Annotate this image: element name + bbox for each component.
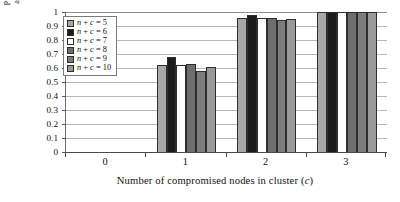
y-axis-title: Probability of selecting adversary clust… bbox=[0, 0, 26, 36]
y-axis-tick-label: 0.6 bbox=[47, 62, 58, 74]
x-axis-tick-label: 3 bbox=[326, 156, 366, 167]
x-axis-tick-labels: 0123 bbox=[65, 156, 386, 172]
legend-swatch bbox=[67, 38, 74, 45]
bar bbox=[257, 18, 267, 152]
bar bbox=[247, 15, 257, 152]
bar-chart-figure: Probability of selecting adversary clust… bbox=[0, 0, 400, 202]
y-axis-tick-label: 0.1 bbox=[47, 132, 58, 144]
x-axis-title-after: ) bbox=[310, 175, 314, 186]
bar bbox=[347, 12, 357, 152]
bar bbox=[286, 19, 296, 152]
legend-swatch bbox=[67, 65, 74, 72]
bar-group bbox=[227, 12, 307, 152]
legend-swatch bbox=[67, 56, 74, 63]
y-axis-tick-label: 0.2 bbox=[47, 118, 58, 130]
bar bbox=[367, 12, 377, 152]
legend-swatch bbox=[67, 47, 74, 54]
bar bbox=[277, 20, 287, 152]
y-axis-tick-label: 0.4 bbox=[47, 90, 58, 102]
x-axis-tick-label: 2 bbox=[246, 156, 286, 167]
x-axis-title-before: Number of compromised nodes in cluster ( bbox=[117, 175, 305, 186]
x-axis-tick-label: 0 bbox=[85, 156, 125, 167]
bar-group bbox=[146, 12, 226, 152]
x-axis-tick-label: 1 bbox=[165, 156, 205, 167]
legend-label: n + c = 10 bbox=[77, 64, 111, 73]
bar bbox=[157, 65, 167, 152]
y-axis-tick-label: 1 bbox=[53, 6, 58, 18]
y-axis-tick-label: 0.9 bbox=[47, 20, 58, 32]
bar bbox=[337, 12, 347, 152]
bar bbox=[317, 12, 327, 152]
bar bbox=[237, 18, 247, 152]
bar bbox=[357, 12, 367, 152]
y-axis-tick-labels: 00.10.20.30.40.50.60.70.80.91 bbox=[30, 6, 62, 158]
legend-swatch bbox=[67, 29, 74, 36]
y-axis-tick-label: 0.5 bbox=[47, 76, 58, 88]
legend: n + c = 5n + c = 6n + c = 7n + c = 8n + … bbox=[63, 16, 117, 76]
bar bbox=[167, 57, 177, 152]
bar bbox=[206, 67, 216, 152]
bar bbox=[327, 12, 337, 152]
bar bbox=[267, 18, 277, 152]
y-axis-tick-label: 0 bbox=[53, 146, 58, 158]
y-axis-tick-label: 0.3 bbox=[47, 104, 58, 116]
x-axis-title: Number of compromised nodes in cluster (… bbox=[40, 175, 390, 186]
y-axis-title-line-2: adversary cluster head bbox=[13, 0, 22, 4]
bar bbox=[196, 71, 206, 152]
legend-item: n + c = 10 bbox=[67, 64, 111, 73]
bar-group bbox=[307, 12, 387, 152]
y-axis-tick-label: 0.8 bbox=[47, 34, 58, 46]
y-axis-tick-label: 0.7 bbox=[47, 48, 58, 60]
bar bbox=[186, 64, 196, 152]
bar bbox=[176, 65, 186, 152]
legend-swatch bbox=[67, 20, 74, 27]
